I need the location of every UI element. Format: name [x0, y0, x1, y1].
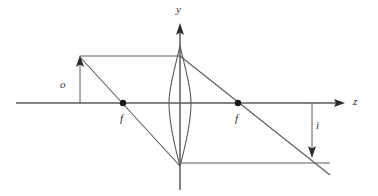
focal-length-label-left: f	[120, 113, 123, 124]
focal-point-right-dot	[235, 100, 241, 106]
focal-ray-group	[80, 57, 180, 166]
focal-length-label-right: f	[235, 113, 238, 124]
object-arrow-group	[76, 55, 84, 103]
ray-diagram-canvas	[0, 0, 378, 196]
object-height-label: o	[60, 79, 66, 90]
focal-point-left-dot	[120, 100, 126, 106]
lens-ray-diagram-figure: y z o f f i	[0, 0, 378, 196]
image-arrow-group	[308, 103, 316, 158]
z-axis-label: z	[353, 96, 357, 107]
y-axis-label: y	[176, 4, 181, 15]
construction-lines-group	[80, 56, 330, 163]
image-height-label: i	[316, 120, 319, 131]
lens-left-surface	[169, 46, 180, 166]
focal-ray-incident	[80, 57, 180, 166]
parallel-ray-refracted	[180, 56, 330, 175]
parallel-ray-group	[180, 56, 330, 175]
